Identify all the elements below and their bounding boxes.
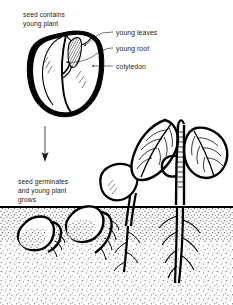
caption-bottom-line3: grows <box>18 196 37 204</box>
caption-bottom-line2: and young plant <box>18 187 66 195</box>
callout-label-young-leaves: young leaves <box>116 29 158 37</box>
germination-diagram: seed contains young plant <box>0 0 233 305</box>
callout-label-cotyledon: cotyledon <box>116 63 146 71</box>
caption-top-line1: seed contains <box>23 11 66 18</box>
diagram-canvas: seed contains young plant <box>0 0 233 305</box>
callout-label-young-root: young root <box>116 45 149 53</box>
caption-top-line2: young plant <box>23 20 58 28</box>
caption-bottom-line1: seed germinates <box>18 178 69 186</box>
